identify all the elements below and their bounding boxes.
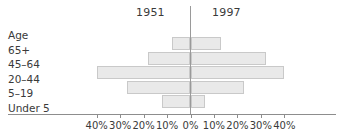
bar-row [0, 95, 344, 108]
population-pyramid-chart: 1951 1997 Age 65+ 45–64 20–44 5–19 Under… [0, 0, 344, 138]
x-axis-tick-label: 10% [203, 120, 225, 131]
baseline-axis-line [8, 114, 336, 115]
bar-right-1997 [191, 52, 266, 65]
x-axis-tick-label: 0% [183, 120, 199, 131]
bar-left-1951 [172, 37, 191, 50]
bar-row [0, 52, 344, 65]
x-axis-tick [284, 114, 285, 118]
x-axis-tick-label: 20% [132, 120, 154, 131]
bar-right-1997 [191, 95, 205, 108]
x-axis-tick-label: 30% [109, 120, 131, 131]
x-axis-tick-label: 10% [156, 120, 178, 131]
x-axis-tick-label: 30% [250, 120, 272, 131]
bar-left-1951 [148, 52, 190, 65]
x-axis-tick [120, 114, 121, 118]
x-axis-tick [144, 114, 145, 118]
bar-row [0, 37, 344, 50]
bar-left-1951 [162, 95, 190, 108]
bar-right-1997 [191, 66, 285, 79]
x-axis-tick [237, 114, 238, 118]
x-axis-tick-label: 40% [273, 120, 295, 131]
x-axis-tick-label: 40% [86, 120, 108, 131]
bar-right-1997 [191, 81, 245, 94]
bar-left-1951 [127, 81, 190, 94]
x-axis-tick [167, 114, 168, 118]
bar-left-1951 [97, 66, 191, 79]
bar-row [0, 81, 344, 94]
x-axis-tick [261, 114, 262, 118]
bar-right-1997 [191, 37, 221, 50]
x-axis-tick [214, 114, 215, 118]
x-axis-tick [97, 114, 98, 118]
bar-row [0, 66, 344, 79]
plot-area: 40%30%20%10%0%10%20%30%40% [0, 0, 344, 138]
x-axis-tick-label: 20% [226, 120, 248, 131]
x-axis-tick [191, 114, 192, 118]
